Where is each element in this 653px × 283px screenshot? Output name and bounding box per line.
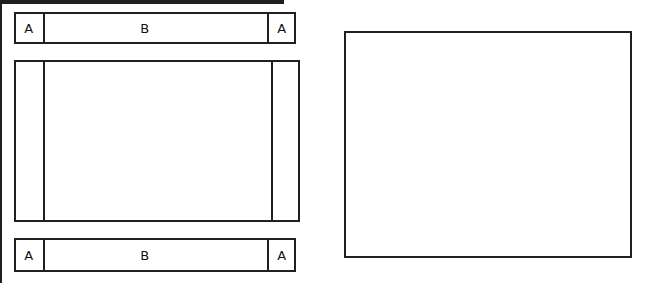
top-rail (14, 12, 296, 44)
diagram-canvas: A B A A B A (0, 0, 653, 283)
bottom-rail (14, 238, 296, 272)
center-panel-divider-right (271, 62, 273, 220)
assembled-frame-line-bottom (0, 2, 284, 4)
top-rail-label-b: B (140, 22, 149, 35)
bottom-rail-label-a-left: A (24, 249, 33, 262)
top-rail-divider-right (267, 14, 269, 42)
center-panel (14, 60, 300, 222)
bottom-rail-label-b: B (140, 249, 149, 262)
top-rail-label-a-right: A (277, 22, 286, 35)
assembled-frame-line-right (0, 227, 2, 283)
assembled-frame-line-left (0, 4, 2, 227)
bottom-rail-divider-left (43, 240, 45, 270)
top-rail-label-a-left: A (24, 22, 33, 35)
assembled-frame-outline (344, 31, 632, 258)
top-rail-divider-left (43, 14, 45, 42)
bottom-rail-divider-right (267, 240, 269, 270)
bottom-rail-label-a-right: A (277, 249, 286, 262)
center-panel-divider-left (43, 62, 45, 220)
